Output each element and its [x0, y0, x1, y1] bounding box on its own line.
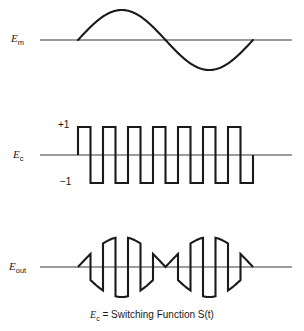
carrier-signal-panel [40, 127, 292, 183]
waveform-svg [0, 0, 304, 331]
carrier-signal-label: Ec [13, 149, 23, 163]
figure-caption: Ec = Switching Function S(t) [0, 309, 304, 323]
caption-text: = Switching Function S(t) [100, 309, 214, 320]
modulating-signal-label: Em [11, 33, 24, 47]
waveform-figure: Em Ec Eout +1 −1 Ec = Switching Function… [0, 0, 304, 331]
output-signal-label: Eout [9, 261, 26, 275]
output-signal-panel [40, 238, 292, 297]
level-high-label: +1 [58, 120, 69, 130]
caption-symbol: Ec [90, 309, 100, 320]
modulating-signal-panel [40, 10, 292, 70]
level-low-label: −1 [60, 177, 71, 187]
